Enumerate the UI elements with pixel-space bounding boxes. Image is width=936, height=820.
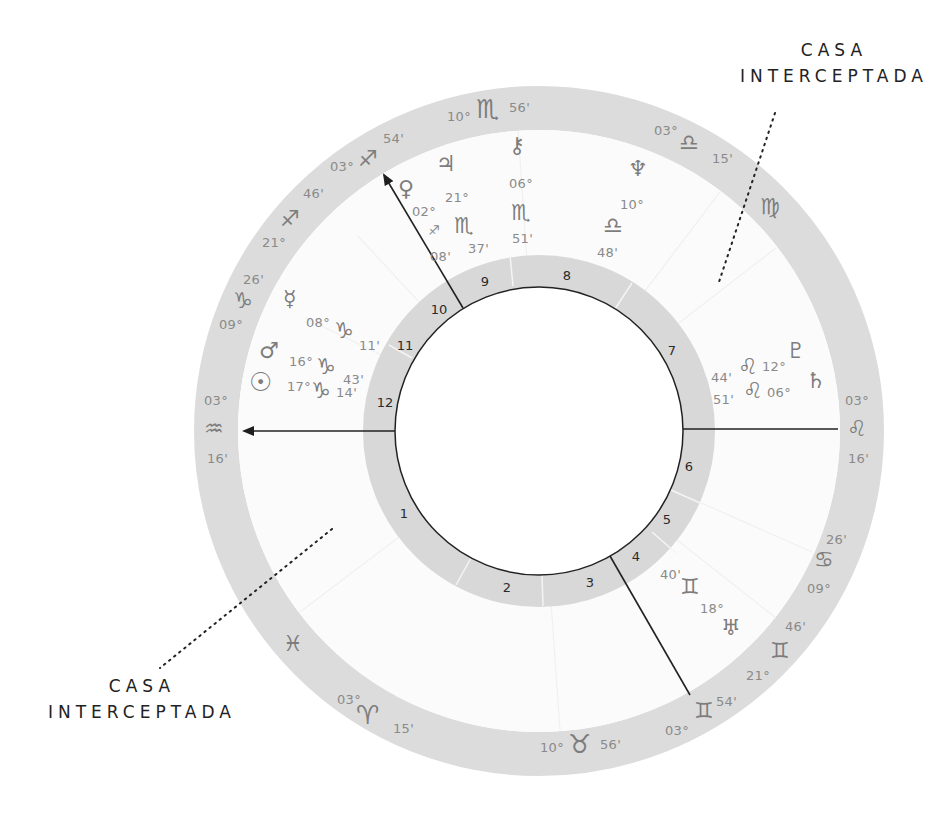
center-circle [395, 287, 683, 575]
uranus-icon: ♅ [721, 617, 741, 639]
scorpio-icon: ♏ [476, 96, 499, 122]
house-4-number: 4 [632, 550, 640, 563]
h5-degree: 21° [746, 669, 770, 682]
gemini-icon-uranus: ♊ [680, 576, 700, 598]
h6-degree: 09° [807, 582, 831, 595]
h8-minutes: 15' [712, 152, 733, 165]
pisces-icon: ♓ [283, 633, 303, 655]
saturn-degree: 06° [767, 386, 791, 399]
neptune-minutes: 48' [597, 246, 618, 259]
caption-bottom-line2: INTERCEPTADA [48, 700, 236, 726]
h11-minutes: 46' [303, 187, 324, 200]
sun-degree: 17° [287, 380, 311, 393]
aquarius-icon: ♒ [204, 418, 224, 440]
gemini-icon: ♊ [770, 640, 790, 662]
sun-icon: ☉ [249, 369, 272, 395]
house-5-number: 5 [663, 513, 671, 526]
sun-minutes: 14' [336, 386, 357, 399]
h9-minutes: 56' [509, 101, 530, 114]
desc-minutes: 16' [848, 452, 869, 465]
h6-minutes: 26' [826, 533, 847, 546]
neptune-degree: 10° [620, 198, 644, 211]
desc-degree: 03° [845, 394, 869, 407]
neptune-icon: ♆ [628, 158, 648, 180]
house-2-number: 2 [503, 581, 511, 594]
jupiter-icon: ♃ [436, 153, 456, 175]
house-8-number: 8 [563, 269, 571, 282]
h12-degree: 09° [219, 318, 243, 331]
uranus-degree: 18° [700, 602, 724, 615]
leo-icon-pluto: ♌ [738, 356, 758, 378]
capricorn-icon: ♑ [233, 290, 253, 312]
capricorn-icon-mars: ♑ [316, 356, 336, 378]
house-1-number: 1 [400, 507, 408, 520]
mc-degree: 03° [330, 160, 354, 173]
house-11-number: 11 [397, 339, 414, 352]
venus-degree: 02° [412, 205, 436, 218]
caption-bottom-line1: CASA [48, 674, 236, 700]
chiron-degree: 06° [509, 177, 533, 190]
mercury-icon: ☿ [283, 288, 297, 310]
libra-icon: ♎ [679, 132, 699, 154]
house-3-number: 3 [586, 576, 594, 589]
h9-degree: 10° [447, 110, 471, 123]
mars-degree: 16° [289, 355, 313, 368]
h11-degree: 21° [262, 236, 286, 249]
ic-minutes: 54' [716, 695, 737, 708]
sagittarius-icon: ♐ [358, 148, 378, 170]
intercepted-house-caption-bottom: CASA INTERCEPTADA [48, 674, 236, 725]
scorpio-icon-chiron: ♏ [511, 202, 531, 224]
mars-icon: ♂ [259, 340, 279, 362]
mercury-minutes: 11' [359, 339, 380, 352]
chiron-icon: ⚷ [509, 135, 525, 157]
house-10-number: 10 [431, 303, 448, 316]
h3-degree: 10° [540, 741, 564, 754]
house-9-number: 9 [481, 275, 489, 288]
pluto-minutes: 44' [711, 371, 732, 384]
h8-degree: 03° [654, 124, 678, 137]
h3-minutes: 56' [600, 738, 621, 751]
h2-minutes: 15' [393, 722, 414, 735]
capricorn-icon-mercury: ♑ [334, 320, 354, 342]
h12-minutes: 26' [243, 273, 264, 286]
leo-icon-saturn: ♌ [743, 380, 763, 402]
chiron-minutes: 51' [512, 232, 533, 245]
intercepted-house-caption-top: CASA INTERCEPTADA [740, 38, 928, 89]
jupiter-degree: 21° [445, 191, 469, 204]
taurus-icon: ♉ [568, 731, 591, 757]
jupiter-minutes: 37' [468, 242, 489, 255]
libra-icon-neptune: ♎ [603, 215, 623, 237]
house-7-number: 7 [668, 344, 676, 357]
uranus-minutes: 40' [660, 568, 681, 581]
saturn-minutes: 51' [713, 393, 734, 406]
pluto-icon: ♇ [786, 340, 806, 362]
leo-icon: ♌ [847, 418, 867, 440]
aries-icon: ♈ [356, 702, 379, 728]
venus-minutes: 08' [430, 250, 451, 263]
house-12-number: 12 [377, 396, 394, 409]
astrology-chart: 1 2 3 4 5 6 7 8 9 10 11 12 03° ♒ 16' 03°… [0, 0, 936, 820]
mc-minutes: 54' [383, 132, 404, 145]
pluto-degree: 12° [762, 360, 786, 373]
caption-top-line1: CASA [740, 38, 928, 64]
scorpio-icon-jupiter: ♏ [454, 215, 474, 237]
house-6-number: 6 [685, 460, 693, 473]
capricorn-icon-sun: ♑ [311, 380, 331, 402]
venus-icon: ♀ [398, 178, 414, 200]
venus-sign: ♐ [428, 224, 440, 237]
mercury-degree: 08° [306, 316, 330, 329]
ic-degree: 03° [665, 724, 689, 737]
cancer-icon: ♋ [814, 549, 834, 571]
h5-minutes: 46' [785, 620, 806, 633]
gemini-icon-2: ♊ [694, 700, 714, 722]
virgo-icon: ♍ [760, 196, 780, 218]
saturn-icon: ♄ [806, 370, 826, 392]
asc-minutes: 16' [207, 452, 228, 465]
sagittarius-icon-2: ♐ [280, 208, 300, 230]
asc-degree: 03° [204, 394, 228, 407]
caption-top-line2: INTERCEPTADA [740, 64, 928, 90]
